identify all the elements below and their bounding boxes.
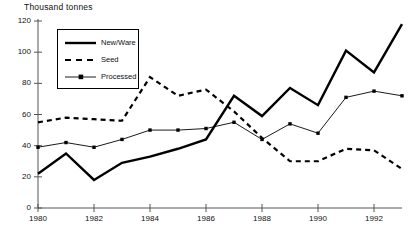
series-marker [288, 122, 291, 125]
thin-line-marker-sample [64, 69, 97, 85]
series-marker [232, 121, 235, 124]
series-line-1 [38, 77, 402, 169]
legend-label-new-ware: New/Ware [101, 38, 136, 47]
series-marker [36, 146, 39, 149]
y-axis-tick-label: 0 [7, 204, 31, 212]
series-marker [176, 128, 179, 131]
y-axis-tick-label: 20 [7, 173, 31, 181]
series-marker [64, 141, 67, 144]
legend-label-seed: Seed [101, 55, 119, 64]
series-marker [148, 128, 151, 131]
series-marker [120, 138, 123, 141]
series-marker [400, 94, 403, 97]
x-axis-tick-label: 1988 [245, 215, 279, 223]
chart-container: Thousand tonnes 020406080100120 19801982… [0, 0, 414, 243]
legend-label-processed: Processed [101, 72, 136, 81]
x-axis-tick-label: 1980 [21, 215, 55, 223]
y-axis-tick-label: 120 [7, 17, 31, 25]
y-axis-tick-label: 100 [7, 48, 31, 56]
legend-item-processed: Processed [58, 69, 140, 85]
series-marker [204, 127, 207, 130]
y-axis-tick-label: 40 [7, 142, 31, 150]
x-axis-tick-label: 1986 [189, 215, 223, 223]
y-axis-tick-label: 60 [7, 111, 31, 119]
series-marker [92, 146, 95, 149]
series-marker [316, 132, 319, 135]
legend-item-new-ware: New/Ware [58, 35, 140, 51]
legend-item-seed: Seed [58, 52, 140, 68]
x-axis-tick-label: 1982 [77, 215, 111, 223]
solid-thick-line-sample [64, 35, 97, 51]
x-axis-tick-label: 1990 [301, 215, 335, 223]
dashed-line-sample [64, 52, 97, 68]
series-marker [260, 138, 263, 141]
series-marker [372, 89, 375, 92]
x-axis-tick-label: 1992 [357, 215, 391, 223]
series-marker [344, 96, 347, 99]
y-axis-tick-label: 80 [7, 79, 31, 87]
chart-legend: New/Ware Seed Processed [57, 29, 139, 89]
x-axis-tick-label: 1984 [133, 215, 167, 223]
